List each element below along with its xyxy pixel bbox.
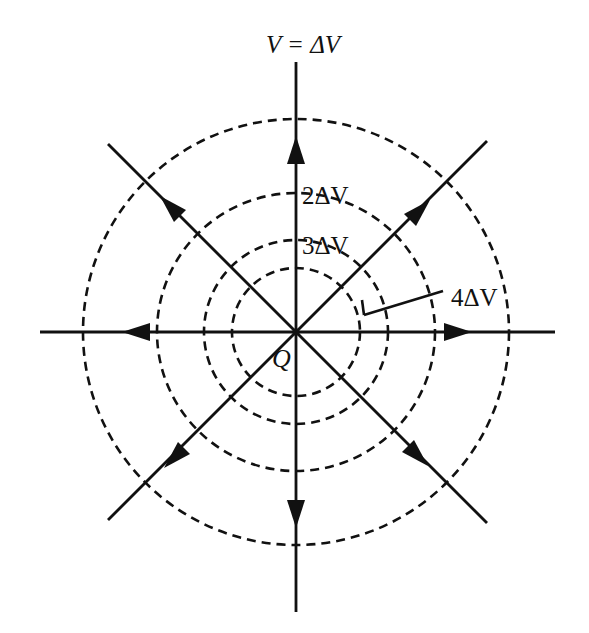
arrowhead-up-right [404,200,430,226]
diagram-canvas [0,0,589,633]
arrowhead-down-right [402,440,428,466]
label-potential-outer: V = ΔV [266,32,340,57]
label-potential-4dv: 4ΔV [451,285,498,310]
leader-tick-4dv [362,300,364,315]
label-charge: Q [272,346,291,372]
label-potential-3dv: 3ΔV [302,233,349,258]
arrowhead-up [287,136,305,164]
label-potential-3dv-text: 3ΔV [302,232,349,259]
label-potential-2dv-text: 2ΔV [302,182,349,209]
label-potential-outer-text: V = ΔV [266,31,340,58]
label-potential-4dv-text: 4ΔV [451,284,498,311]
equipotential-diagram: V = ΔV 2ΔV 3ΔV 4ΔV Q [0,0,589,633]
point-charge-marker [293,329,300,336]
arrowhead-right [444,323,472,341]
label-potential-2dv: 2ΔV [302,183,349,208]
arrowhead-left [122,323,150,341]
label-charge-text: Q [272,344,291,373]
arrowhead-down [287,500,305,528]
arrowhead-down-left [164,442,190,468]
